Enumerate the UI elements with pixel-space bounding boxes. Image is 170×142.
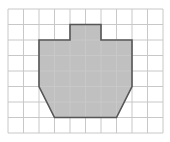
square-grid: [8, 9, 163, 133]
grid-shape-figure: [0, 0, 170, 142]
